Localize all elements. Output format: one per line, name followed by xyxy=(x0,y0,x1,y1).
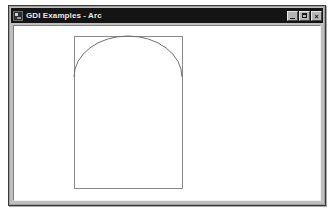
minimize-icon xyxy=(290,18,295,19)
maximize-button[interactable] xyxy=(299,11,310,21)
application-window: GDI Examples - Arc × xyxy=(8,5,326,206)
minimize-button[interactable] xyxy=(287,11,298,21)
desktop-background: GDI Examples - Arc × xyxy=(0,0,336,214)
gdi-canvas xyxy=(14,26,320,201)
title-bar[interactable]: GDI Examples - Arc × xyxy=(11,8,323,23)
close-button[interactable]: × xyxy=(311,11,322,21)
bounding-rectangle xyxy=(75,37,183,189)
app-window-icon xyxy=(13,11,23,21)
window-frame: GDI Examples - Arc × xyxy=(9,6,325,205)
window-title: GDI Examples - Arc xyxy=(26,9,287,22)
close-icon: × xyxy=(312,12,321,20)
arc-curve xyxy=(74,36,182,77)
window-controls: × xyxy=(287,11,322,21)
maximize-icon xyxy=(302,13,307,18)
gdi-drawing-surface[interactable] xyxy=(13,25,321,201)
